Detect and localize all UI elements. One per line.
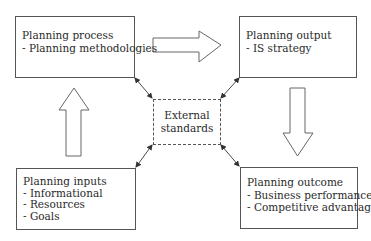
node-item: - Competitive advantage (247, 201, 357, 214)
node-item: - IS strategy (246, 42, 356, 55)
right-arrow-icon (153, 31, 221, 62)
connector-output-standards (221, 78, 239, 98)
connector-inputs-standards (136, 145, 152, 167)
standards-line-2: standards (161, 122, 214, 135)
external-standards-box: External standards (153, 99, 221, 145)
standards-line-1: External (164, 109, 209, 122)
planning-process-box: Planning process - Planning methodologie… (15, 16, 135, 78)
node-item: - Business performance (247, 189, 357, 202)
node-item: - Planning methodologies (22, 42, 134, 55)
node-title: Planning outcome (247, 176, 357, 189)
planning-outcome-box: Planning outcome - Business performance … (240, 167, 358, 229)
up-arrow-icon (59, 88, 89, 156)
down-arrow-icon (283, 88, 313, 156)
node-item: - Goals (23, 211, 135, 223)
connector-outcome-standards (221, 145, 239, 166)
node-title: Planning inputs (23, 176, 135, 188)
planning-output-box: Planning output - IS strategy (239, 16, 357, 78)
node-item: - Resources (23, 199, 135, 211)
connector-process-standards (135, 78, 152, 98)
node-title: Planning process (22, 29, 134, 42)
planning-inputs-box: Planning inputs - Informational - Resour… (16, 168, 136, 230)
node-title: Planning output (246, 29, 356, 42)
